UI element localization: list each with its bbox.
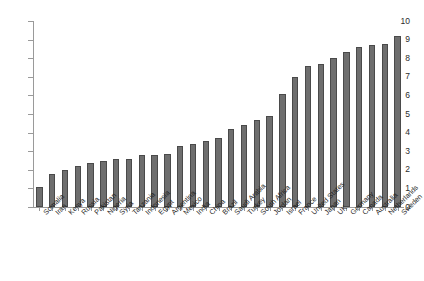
bar [318, 64, 324, 207]
y-tick-mark [28, 207, 33, 208]
bar [292, 77, 298, 207]
bar [382, 44, 388, 207]
bar [305, 66, 311, 207]
bar [36, 187, 42, 207]
x-axis-labels: SomaliaIranKenyaRussiaPakistanNigeriaSyr… [33, 211, 404, 281]
bar [228, 129, 234, 207]
bar [356, 47, 362, 207]
bar [394, 36, 400, 207]
bar [203, 141, 209, 207]
bar [369, 45, 375, 207]
bar-series [33, 21, 404, 207]
bar [266, 116, 272, 207]
